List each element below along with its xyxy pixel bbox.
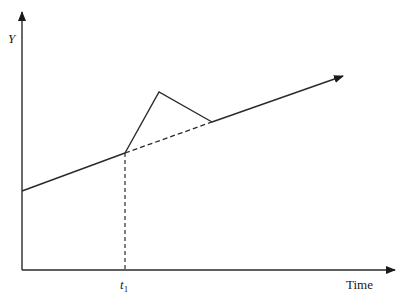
trend-line-after-rejoin	[212, 76, 343, 122]
t1-label: t1	[120, 277, 128, 294]
y-axis-label: Y	[8, 31, 17, 46]
trend-line-dashed-counterfactual	[125, 122, 212, 153]
x-axis-label: Time	[346, 277, 373, 292]
trend-line-before-t1	[22, 153, 125, 191]
diagram-canvas: Y Time t1	[0, 0, 409, 298]
spike-deviation	[125, 92, 212, 153]
t1-label-subscript: 1	[124, 284, 129, 294]
